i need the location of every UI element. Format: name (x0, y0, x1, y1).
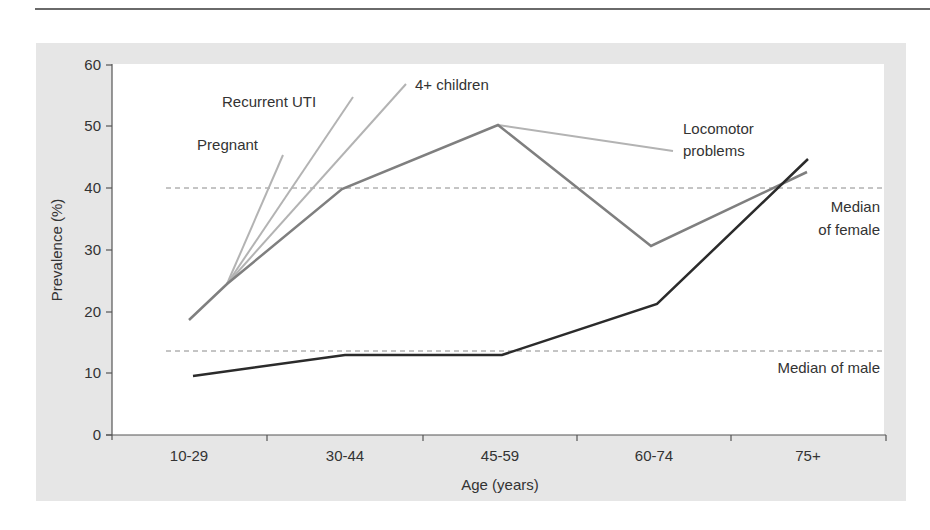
x-tick-label: 45-59 (481, 447, 519, 464)
y-tick-label: 40 (84, 179, 101, 196)
plot-area (112, 64, 884, 435)
y-tick-label: 10 (84, 364, 101, 381)
annotation-locomotor: Locomotor (683, 120, 754, 137)
x-ticks (267, 435, 886, 441)
y-tick-label: 0 (93, 426, 101, 443)
x-tick-label: 75+ (795, 447, 821, 464)
y-tick-label: 50 (84, 117, 101, 134)
annotation-recurrent-uti: Recurrent UTI (222, 93, 316, 110)
annotation-median-male: Median of male (777, 359, 880, 376)
annotation-median-female-1: Median (831, 198, 880, 215)
y-axis-title: Prevalence (%) (48, 199, 65, 302)
y-tick-label: 20 (84, 303, 101, 320)
x-tick-label: 60-74 (635, 447, 673, 464)
chart: 0 10 20 30 40 50 60 10-29 30-44 45-59 60… (0, 0, 930, 530)
annotation-median-female-2: of female (818, 221, 880, 238)
x-tick-label: 10-29 (170, 447, 208, 464)
annotation-pregnant: Pregnant (197, 136, 259, 153)
annotation-four-children: 4+ children (415, 76, 489, 93)
x-axis-title: Age (years) (461, 476, 539, 493)
x-tick-label: 30-44 (326, 447, 364, 464)
y-tick-label: 60 (84, 56, 101, 73)
annotation-problems: problems (683, 142, 745, 159)
y-tick-label: 30 (84, 241, 101, 258)
y-ticks (106, 65, 112, 435)
